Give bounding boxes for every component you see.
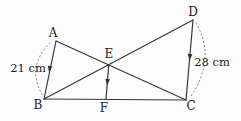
geometry-diagram: A B C D E F 21 cm 28 cm [0,0,241,121]
right-measurement-label: 28 cm [194,55,230,69]
vertex-label-b: B [34,98,43,112]
left-measurement-label: 21 cm [10,61,46,75]
arrow-down-ef-icon [105,79,110,86]
vertex-label-e: E [105,47,114,61]
vertex-label-a: A [48,26,58,40]
diagonal-bd [44,20,193,99]
segment-bc [44,99,186,100]
vertex-label-c: C [186,99,195,113]
diagonal-ac [56,41,186,100]
vertex-label-d: D [188,5,198,19]
diagram-canvas: A B C D E F 21 cm 28 cm [0,0,241,121]
arrow-down-dc-icon [187,54,192,61]
vertex-label-f: F [100,101,108,115]
